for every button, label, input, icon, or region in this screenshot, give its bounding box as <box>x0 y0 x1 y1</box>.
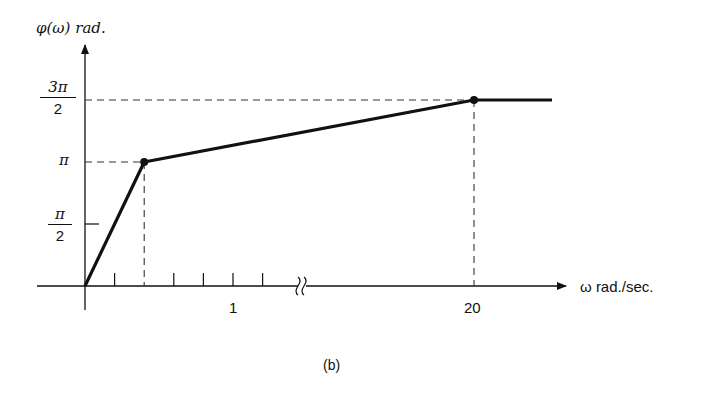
series-line-phase <box>85 100 552 286</box>
y-axis-label: φ(ω) rad. <box>36 20 106 36</box>
y-tick-pi2-den: 2 <box>48 225 72 243</box>
breakpoint-marker <box>140 158 148 166</box>
y-tick-3pi2-den: 2 <box>40 98 76 116</box>
x-axis-label-text: ω rad./sec. <box>580 278 653 295</box>
x-tick-label-1: 1 <box>229 300 237 315</box>
y-tick-label-pi: π <box>59 153 69 168</box>
x-axis-label: ω rad./sec. <box>580 279 653 294</box>
breakpoint-marker <box>470 96 478 104</box>
x-axis-break-icon <box>296 277 306 295</box>
y-axis-label-text: φ(ω) rad. <box>36 19 106 37</box>
y-tick-pi2-num: π <box>48 207 72 225</box>
y-tick-label-pi-over-2: π 2 <box>48 207 72 243</box>
y-tick-label-3pi-over-2: 3π 2 <box>40 80 76 116</box>
phase-plot <box>0 0 713 399</box>
x-tick-label-20: 20 <box>464 300 481 315</box>
figure-caption: (b) <box>323 358 340 372</box>
y-tick-3pi2-num: 3π <box>40 80 76 98</box>
